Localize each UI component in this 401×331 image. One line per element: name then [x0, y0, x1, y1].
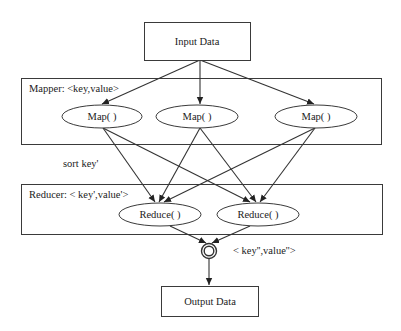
edge-input-map3 — [200, 60, 314, 104]
map-to-reduce-edges — [103, 128, 315, 202]
output-data-label: Output Data — [184, 296, 236, 307]
sort-key-annotation: sort key' — [63, 158, 99, 169]
map-node-3-label: Map( ) — [302, 111, 331, 123]
reduce-node-2: Reduce( ) — [217, 203, 299, 226]
reducer-label: Reducer: < key',value'> — [29, 189, 128, 200]
reduce-node-1: Reduce( ) — [119, 203, 201, 226]
edge-map3-reduce1 — [164, 128, 315, 202]
input-data-node: Input Data — [145, 23, 251, 61]
edge-input-map1 — [102, 60, 200, 104]
map-node-1-label: Map( ) — [88, 111, 117, 123]
reduce-node-2-label: Reduce( ) — [237, 209, 279, 221]
input-data-label: Input Data — [175, 36, 220, 47]
final-key-value-annotation: < key'',value''> — [233, 245, 296, 256]
map-node-1: Map( ) — [62, 105, 142, 128]
edge-map3-reduce2 — [260, 128, 315, 202]
edge-map2-reduce1 — [159, 128, 200, 202]
merge-node — [202, 244, 217, 259]
output-data-node: Output Data — [162, 287, 259, 317]
map-node-2: Map( ) — [156, 105, 238, 128]
input-to-map-edges — [102, 60, 314, 104]
mapreduce-diagram: Mapper: <key,value> Reducer: < key',valu… — [0, 0, 401, 331]
map-node-2-label: Map( ) — [183, 111, 212, 123]
reducer-group: Reducer: < key',value'> — [22, 185, 383, 235]
mapper-label: Mapper: <key,value> — [29, 83, 119, 94]
map-node-3: Map( ) — [275, 105, 357, 128]
reduce-node-1-label: Reduce( ) — [139, 209, 181, 221]
